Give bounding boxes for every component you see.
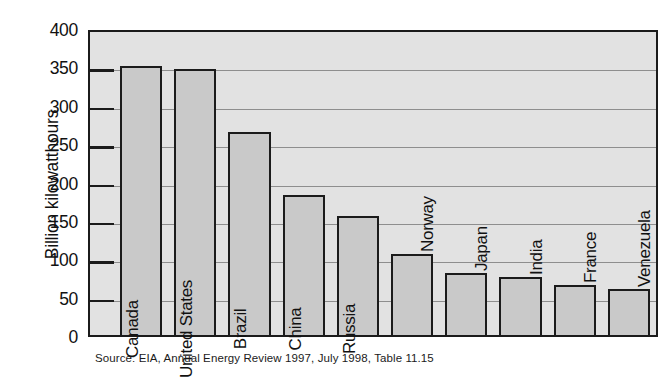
y-tick-label: 150: [0, 213, 78, 231]
bar-chart-figure: Billion kilowatthours 050100150200250300…: [0, 0, 669, 387]
bar-label: Venezuela: [636, 210, 653, 287]
bar-label: Japan: [473, 226, 490, 271]
y-tick-label: 100: [0, 251, 78, 269]
bar: [445, 273, 487, 335]
bar-label: Norway: [419, 197, 436, 253]
y-tick-label: 350: [0, 59, 78, 77]
bar: China: [283, 195, 325, 335]
y-tick-label: 300: [0, 98, 78, 116]
source-note: Source: EIA, Annual Energy Review 1997, …: [95, 351, 434, 365]
bar: United States: [174, 69, 216, 335]
y-tick-label: 0: [0, 328, 78, 346]
bar: [554, 285, 596, 335]
y-tick-label: 200: [0, 175, 78, 193]
bar-label: France: [582, 232, 599, 283]
plot-area: CanadaUnited StatesBrazilChinaRussiaNorw…: [88, 30, 658, 337]
bar: Brazil: [228, 132, 270, 335]
bars-layer: CanadaUnited StatesBrazilChinaRussiaNorw…: [90, 32, 656, 335]
bar-label: Canada: [124, 300, 141, 358]
bar: [391, 254, 433, 335]
bar-label: India: [528, 240, 545, 275]
y-tick-label: 400: [0, 21, 78, 39]
bar: Russia: [337, 216, 379, 335]
y-tick-label: 50: [0, 290, 78, 308]
y-tick-label: 250: [0, 136, 78, 154]
bar: [608, 289, 650, 335]
bar-label: Brazil: [232, 309, 249, 350]
bar-label: China: [287, 308, 304, 351]
bar: [499, 277, 541, 335]
bar: Canada: [120, 66, 162, 335]
bar-label: Russia: [341, 304, 358, 354]
y-axis-tick-labels: 050100150200250300350400: [0, 0, 78, 387]
